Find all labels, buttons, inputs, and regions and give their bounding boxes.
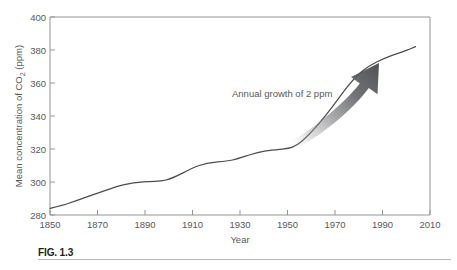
y-axis-title: Mean concentration of CO2 (ppm) [13, 45, 27, 187]
x-tick-label-1870: 1870 [87, 219, 108, 230]
y-axis-ticks [50, 17, 55, 215]
svg-text:Mean concentration of CO2 (ppm: Mean concentration of CO2 (ppm) [13, 45, 27, 187]
x-tick-label-1970: 1970 [324, 219, 345, 230]
y-tick-label-320: 320 [30, 144, 46, 155]
axes-border [50, 17, 430, 215]
x-axis-ticks [50, 210, 430, 215]
figure-caption-label: FIG. 1.3 [38, 246, 73, 259]
y-axis-tick-labels: 400 380 360 340 320 300 280 [30, 12, 46, 221]
y-axis-title-tail: (ppm) [13, 45, 24, 72]
co2-series-line [50, 47, 416, 209]
annual-growth-annotation-label: Annual growth of 2 ppm [232, 88, 332, 99]
y-tick-label-380: 380 [30, 45, 46, 56]
y-tick-label-400: 400 [30, 12, 46, 23]
plot-frame [50, 17, 430, 215]
x-tick-label-2010: 2010 [419, 219, 440, 230]
x-tick-label-1990: 1990 [372, 219, 393, 230]
y-tick-label-360: 360 [30, 78, 46, 89]
y-tick-label-340: 340 [30, 111, 46, 122]
x-tick-label-1930: 1930 [229, 219, 250, 230]
caption-divider [38, 259, 451, 260]
x-tick-label-1890: 1890 [134, 219, 155, 230]
x-tick-label-1910: 1910 [182, 219, 203, 230]
figure-caption: FIG. 1.3 [38, 242, 457, 260]
x-tick-label-1850: 1850 [39, 219, 60, 230]
co2-concentration-chart: 400 380 360 340 320 300 280 1850 1870 18… [0, 0, 457, 270]
y-axis-title-main: Mean concentration of CO [13, 76, 24, 187]
growth-arrow [291, 63, 379, 150]
x-axis-tick-labels: 1850 1870 1890 1910 1930 1950 1970 1990 … [39, 219, 440, 230]
figure-container: 400 380 360 340 320 300 280 1850 1870 18… [0, 0, 457, 270]
x-tick-label-1950: 1950 [277, 219, 298, 230]
y-tick-label-300: 300 [30, 177, 46, 188]
